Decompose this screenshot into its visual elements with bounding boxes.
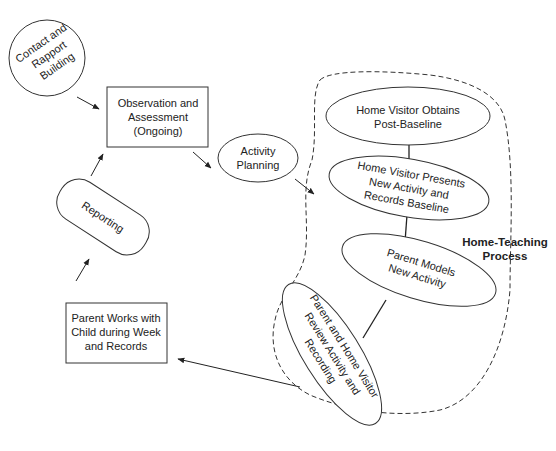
svg-text:Home-Teaching: Home-Teaching [462,236,547,248]
node-observation-assessment: Observation and Assessment (Ongoing) [107,87,208,147]
node-parent-works: Parent Works with Child during Week and … [66,303,167,363]
svg-text:Process: Process [483,250,528,262]
arrow-planning-to-process [295,179,314,194]
svg-text:Activity: Activity [241,145,276,157]
svg-text:Planning: Planning [237,159,280,171]
node-activity-planning: Activity Planning [218,134,298,182]
node-presents-activity: Home Visitor Presents New Activity and R… [324,145,494,230]
svg-text:Child during Week: Child during Week [71,326,161,338]
arrow-reporting-to-observation [91,154,103,176]
svg-text:Observation and: Observation and [118,97,199,109]
node-reporting: Reporting [49,171,157,262]
arrow-parent-works-to-reporting [76,259,89,281]
node-contact-rapport: Contact and Rapport Building [9,20,85,96]
svg-text:Assessment: Assessment [128,111,188,123]
arrow-observation-to-planning [193,152,211,168]
group-label-home-teaching: Home-Teaching Process [462,236,547,262]
node-post-baseline: Home Visitor Obtains Post-Baseline [326,87,490,145]
svg-text:Post-Baseline: Post-Baseline [374,118,442,130]
svg-text:Parent Works with: Parent Works with [71,312,160,324]
home-visiting-diagram: Contact and Rapport Building Observation… [0,0,556,451]
svg-text:(Ongoing): (Ongoing) [134,125,183,137]
arrow-process-to-parent-works [178,359,300,387]
svg-text:Home Visitor Obtains: Home Visitor Obtains [356,104,460,116]
svg-text:and Records: and Records [85,340,148,352]
node-review-activity: Parent and Home Visitor Review Activity … [265,270,399,439]
node-parent-models: Parent Models New Activity [334,219,504,321]
connector [363,300,386,338]
arrow-contact-to-observation [77,97,99,109]
